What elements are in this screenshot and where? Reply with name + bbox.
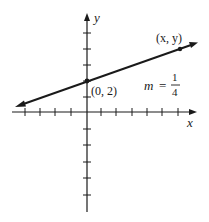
y-axis-label: y (92, 10, 100, 25)
slope-denominator: 4 (172, 86, 178, 98)
graph: y x (0, 2) (x, y) m = 1 4 (0, 0, 209, 222)
line-left-arrow-icon (15, 101, 26, 108)
y-axis-arrow-icon (84, 13, 90, 21)
intercept-point-label: (0, 2) (91, 84, 117, 98)
intercept-point (85, 79, 90, 84)
x-axis-label: x (186, 115, 193, 130)
general-point-label: (x, y) (156, 31, 182, 45)
line-right-arrow-icon (189, 42, 198, 48)
slope-m: m (144, 78, 153, 93)
slope-annotation: m = 1 4 (144, 71, 180, 98)
slope-equals: = (159, 78, 166, 93)
slope-numerator: 1 (172, 71, 178, 83)
general-point (178, 47, 182, 51)
x-axis (12, 108, 197, 116)
